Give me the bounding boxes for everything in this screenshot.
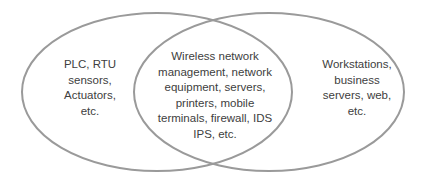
intersection-line: Wireless network [140, 49, 290, 65]
right-set-label: Workstations, business servers, web, etc… [290, 57, 424, 119]
intersection-line: IPS, etc. [140, 127, 290, 143]
left-set-line: PLC, RTU [40, 57, 140, 73]
intersection-line: terminals, firewall, IDS [140, 111, 290, 127]
left-set-line: etc. [40, 104, 140, 120]
right-set-line: etc. [290, 104, 424, 120]
left-set-label: PLC, RTU sensors, Actuators, etc. [40, 57, 140, 119]
right-set-line: business [290, 73, 424, 89]
left-set-line: Actuators, [40, 88, 140, 104]
intersection-line: management, network [140, 65, 290, 81]
intersection-line: equipment, servers, [140, 80, 290, 96]
right-set-line: servers, web, [290, 88, 424, 104]
intersection-line: printers, mobile [140, 96, 290, 112]
intersection-label: Wireless network management, network equ… [140, 49, 290, 142]
right-set-line: Workstations, [290, 57, 424, 73]
left-set-line: sensors, [40, 73, 140, 89]
